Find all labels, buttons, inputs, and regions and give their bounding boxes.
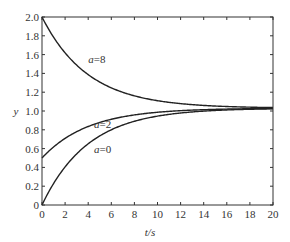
x-tick-label: 4 xyxy=(85,208,91,220)
y-tick-label: 1.2 xyxy=(25,86,39,98)
x-tick-label: 6 xyxy=(109,208,115,220)
y-tick-label: 0.2 xyxy=(25,180,39,192)
y-tick-label: 1.6 xyxy=(25,49,39,61)
x-tick-label: 2 xyxy=(62,208,68,220)
x-tick-label: 10 xyxy=(152,208,164,220)
x-tick-label: 14 xyxy=(198,208,210,220)
y-axis-label: y xyxy=(13,105,19,117)
axis-ticks xyxy=(42,17,273,205)
y-tick-label: 1.4 xyxy=(25,67,39,79)
x-tick-label: 20 xyxy=(268,208,280,220)
y-tick-label: 2.0 xyxy=(25,11,39,23)
y-tick-label: 0 xyxy=(34,199,40,211)
x-tick-label: 18 xyxy=(244,208,256,220)
y-tick-label: 1.0 xyxy=(25,105,39,117)
curve-a-8 xyxy=(42,17,273,108)
y-tick-label: 1.8 xyxy=(25,30,39,42)
line-chart: 0246810121416182000.20.40.60.81.01.21.41… xyxy=(0,0,290,242)
curve-annotations: a=8a=2a=0 xyxy=(88,53,111,154)
curve-label: a=8 xyxy=(88,53,106,65)
x-tick-label: 12 xyxy=(175,208,186,220)
x-axis-label: t/s xyxy=(145,226,155,238)
curve-label: a=0 xyxy=(94,143,112,155)
y-tick-label: 0.6 xyxy=(25,143,39,155)
x-tick-label: 8 xyxy=(132,208,138,220)
curves xyxy=(42,17,273,205)
y-tick-label: 0.8 xyxy=(25,124,39,136)
curve-label: a=2 xyxy=(94,118,111,130)
y-tick-label: 0.4 xyxy=(25,161,39,173)
curve-a-0 xyxy=(42,109,273,205)
x-tick-label: 0 xyxy=(39,208,45,220)
tick-labels: 0246810121416182000.20.40.60.81.01.21.41… xyxy=(25,11,279,220)
x-tick-label: 16 xyxy=(221,208,233,220)
plot-frame xyxy=(42,17,273,205)
